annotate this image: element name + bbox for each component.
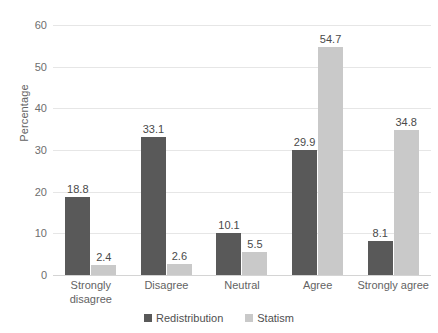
y-tick-label: 30 bbox=[7, 145, 47, 156]
bar-value-label: 2.6 bbox=[172, 250, 187, 262]
bar-slot: 5.5 bbox=[242, 25, 268, 275]
bar-slot: 10.1 bbox=[216, 25, 242, 275]
x-tick-label: Agree bbox=[280, 279, 356, 307]
bar-group: 18.82.4 bbox=[53, 25, 129, 275]
y-tick-label: 40 bbox=[7, 103, 47, 114]
axis-baseline bbox=[53, 275, 431, 276]
legend-item-statism[interactable]: Statism bbox=[245, 312, 294, 324]
bar-slot: 34.8 bbox=[393, 25, 419, 275]
y-tick-label: 60 bbox=[7, 20, 47, 31]
chart-legend: RedistributionStatism bbox=[0, 312, 438, 324]
bar[interactable]: 33.1 bbox=[141, 137, 166, 275]
bar[interactable]: 18.8 bbox=[65, 197, 90, 275]
bar-slot: 29.9 bbox=[292, 25, 318, 275]
x-tick-label: Strongly agree bbox=[355, 279, 431, 307]
bar[interactable]: 5.5 bbox=[242, 252, 267, 275]
bar-group: 10.15.5 bbox=[204, 25, 280, 275]
y-tick-label: 20 bbox=[7, 186, 47, 197]
bar[interactable]: 2.4 bbox=[91, 265, 116, 275]
x-tick-label: Disagree bbox=[129, 279, 205, 307]
bar-value-label: 10.1 bbox=[218, 219, 239, 231]
legend-item-redistribution[interactable]: Redistribution bbox=[144, 312, 223, 324]
bar-group: 33.12.6 bbox=[129, 25, 205, 275]
y-tick-label: 50 bbox=[7, 61, 47, 72]
y-tick-label: 10 bbox=[7, 228, 47, 239]
legend-swatch-icon bbox=[144, 314, 152, 322]
bar-group: 8.134.8 bbox=[355, 25, 431, 275]
x-tick-label: Neutral bbox=[204, 279, 280, 307]
bar[interactable]: 10.1 bbox=[216, 233, 241, 275]
y-tick-label: 0 bbox=[7, 270, 47, 281]
bar-value-label: 54.7 bbox=[320, 33, 341, 45]
legend-swatch-icon bbox=[245, 314, 253, 322]
x-tick-label-line: disagree bbox=[55, 293, 127, 307]
bar-group: 29.954.7 bbox=[280, 25, 356, 275]
bar-value-label: 34.8 bbox=[395, 116, 416, 128]
legend-label: Redistribution bbox=[156, 312, 223, 324]
x-axis-tick-labels: StronglydisagreeDisagreeNeutralAgreeStro… bbox=[53, 279, 431, 307]
x-tick-label: Stronglydisagree bbox=[53, 279, 129, 307]
bar-value-label: 8.1 bbox=[373, 227, 388, 239]
bar-value-label: 33.1 bbox=[143, 123, 164, 135]
bar-chart: Percentage 0102030405060 18.82.433.12.61… bbox=[0, 0, 438, 333]
bar[interactable]: 8.1 bbox=[368, 241, 393, 275]
bar-value-label: 2.4 bbox=[96, 251, 111, 263]
x-tick-label-line: Disagree bbox=[131, 279, 203, 293]
bar-slot: 54.7 bbox=[318, 25, 344, 275]
bar-slot: 33.1 bbox=[140, 25, 166, 275]
bar[interactable]: 54.7 bbox=[318, 47, 343, 275]
bar-value-label: 18.8 bbox=[67, 183, 88, 195]
bar-slot: 2.6 bbox=[166, 25, 192, 275]
x-tick-label-line: Strongly bbox=[55, 279, 127, 293]
x-tick-label-line: Strongly agree bbox=[357, 279, 429, 293]
bar-slot: 18.8 bbox=[65, 25, 91, 275]
bar[interactable]: 2.6 bbox=[167, 264, 192, 275]
bar-value-label: 29.9 bbox=[294, 136, 315, 148]
bar-groups: 18.82.433.12.610.15.529.954.78.134.8 bbox=[53, 25, 431, 275]
x-tick-label-line: Neutral bbox=[206, 279, 278, 293]
bar[interactable]: 34.8 bbox=[394, 130, 419, 275]
bar-slot: 8.1 bbox=[367, 25, 393, 275]
x-tick-label-line: Agree bbox=[282, 279, 354, 293]
legend-label: Statism bbox=[257, 312, 294, 324]
bar-slot: 2.4 bbox=[91, 25, 117, 275]
bar-value-label: 5.5 bbox=[247, 238, 262, 250]
bar[interactable]: 29.9 bbox=[292, 150, 317, 275]
